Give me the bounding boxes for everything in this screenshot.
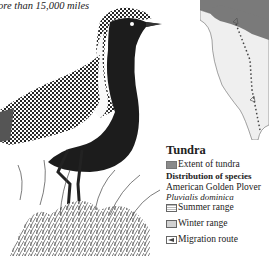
legend-title: Tundra <box>166 143 269 157</box>
species-common-name: American Golden Plover <box>166 182 269 192</box>
tundra-swatch-icon <box>166 161 177 169</box>
map-legend: Tundra Extent of tundra Distribution of … <box>166 143 269 245</box>
distribution-heading: Distribution of species <box>166 171 269 182</box>
legend-item-migration-route: Migration route <box>166 234 269 245</box>
legend-item-summer-range: Summer range <box>166 202 269 213</box>
north-america-map-icon <box>200 0 269 140</box>
summer-range-swatch-icon <box>166 204 177 212</box>
legend-item-winter-range: Winter range <box>166 218 269 229</box>
legend-item-tundra: Extent of tundra <box>166 159 269 170</box>
winter-range-swatch-icon <box>166 220 177 228</box>
species-scientific-name: Pluvialis dominica <box>166 192 269 202</box>
migration-arrow-icon <box>166 236 177 244</box>
